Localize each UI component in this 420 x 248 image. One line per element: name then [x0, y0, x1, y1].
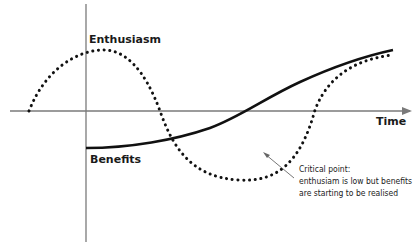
enthusiasm-label: Enthusiasm — [89, 33, 161, 46]
annotation-line-1: Critical point: — [299, 164, 350, 174]
enthusiasm-benefits-diagram: Enthusiasm Benefits Time Critical point:… — [0, 0, 420, 248]
enthusiasm-curve — [29, 50, 393, 180]
annotation-leader-line — [265, 154, 294, 178]
benefits-curve — [86, 50, 393, 148]
annotation-line-2: enthusiam is low but benefits — [299, 176, 412, 186]
time-axis-arrow-icon — [402, 107, 412, 115]
annotation-line-3: are starting to be realised — [299, 188, 398, 198]
time-label: Time — [376, 115, 406, 128]
benefits-label: Benefits — [90, 153, 142, 166]
